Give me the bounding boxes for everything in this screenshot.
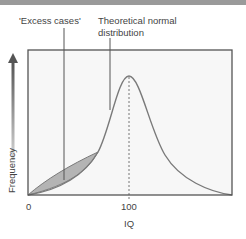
y-axis-label: Frequency [6,148,17,193]
theoretical-label-line2: distribution [98,27,144,38]
frequency-arrow-icon [8,53,18,63]
x-tick-0: 0 [26,201,31,212]
x-axis-label: IQ [124,218,134,229]
frequency-arrow-shaft [12,62,15,160]
excess-cases-label: 'Excess cases' [19,15,81,26]
theoretical-label-line1: Theoretical normal [98,15,177,26]
x-tick-100: 100 [121,201,137,212]
